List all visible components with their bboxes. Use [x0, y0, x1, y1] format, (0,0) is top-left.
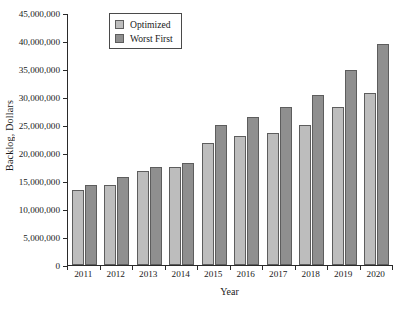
bars-container — [68, 14, 392, 265]
y-axis-tick-mark — [63, 154, 68, 155]
y-axis-tick-label: 35,000,000 — [19, 66, 60, 75]
legend-label-worst-first: Worst First — [130, 33, 173, 44]
y-axis-tick-label: 45,000,000 — [19, 10, 60, 19]
y-axis-tick-mark — [63, 14, 68, 15]
chart-legend: Optimized Worst First — [109, 13, 182, 49]
x-axis-tick-label: 2011 — [74, 269, 92, 279]
y-axis-tick-mark — [63, 238, 68, 239]
x-axis-tick-label: 2012 — [107, 269, 125, 279]
bar — [299, 125, 311, 265]
y-axis-tick-mark — [63, 98, 68, 99]
y-axis-title-text: Backlog, Dollars — [4, 100, 15, 171]
x-axis-tick-label: 2013 — [139, 269, 157, 279]
y-axis-tick-mark — [63, 42, 68, 43]
bar — [182, 163, 194, 265]
x-axis-tick-mark — [392, 265, 393, 270]
plot-area — [67, 14, 392, 266]
y-axis-tick-label: 0 — [55, 262, 60, 271]
y-axis-tick-mark — [63, 210, 68, 211]
x-axis-tick-label: 2017 — [269, 269, 287, 279]
bar — [85, 185, 97, 265]
bar — [280, 107, 292, 265]
y-axis-tick-mark — [63, 70, 68, 71]
bar — [377, 44, 389, 265]
bar — [332, 107, 344, 265]
bar — [72, 190, 84, 265]
bar — [150, 167, 162, 265]
y-axis-tick-label: 30,000,000 — [19, 94, 60, 103]
bar — [234, 136, 246, 265]
legend-swatch-icon-optimized — [115, 20, 124, 29]
legend-label-optimized: Optimized — [130, 19, 171, 30]
y-axis-tick-mark — [63, 182, 68, 183]
bar — [364, 93, 376, 265]
bar — [267, 133, 279, 265]
bar — [117, 177, 129, 265]
bar — [169, 167, 181, 265]
bar — [137, 171, 149, 265]
x-axis-tick-label: 2015 — [204, 269, 222, 279]
y-axis-tick-label: 40,000,000 — [19, 38, 60, 47]
bar — [312, 95, 324, 265]
x-axis-tick-label: 2018 — [302, 269, 320, 279]
bar — [202, 143, 214, 265]
x-axis-tick-labels: 2011201220132014201520162017201820192020 — [67, 269, 392, 285]
y-axis-tick-label: 10,000,000 — [19, 206, 60, 215]
y-axis-tick-label: 15,000,000 — [19, 178, 60, 187]
x-axis-tick-label: 2019 — [334, 269, 352, 279]
x-axis-tick-label: 2016 — [237, 269, 255, 279]
y-axis-tick-labels: 05,000,00010,000,00015,000,00020,000,000… — [14, 14, 64, 266]
legend-item-optimized: Optimized — [115, 17, 173, 31]
x-axis-title: Year — [67, 286, 392, 297]
y-axis-tick-label: 20,000,000 — [19, 150, 60, 159]
legend-swatch-icon-worst-first — [115, 34, 124, 43]
bar — [345, 70, 357, 265]
y-axis-tick-label: 25,000,000 — [19, 122, 60, 131]
bar — [247, 117, 259, 265]
bar — [215, 125, 227, 265]
x-axis-tick-label: 2014 — [172, 269, 190, 279]
legend-item-worst-first: Worst First — [115, 31, 173, 45]
bar — [104, 185, 116, 265]
x-axis-tick-label: 2020 — [367, 269, 385, 279]
bar-chart: Backlog, Dollars 05,000,00010,000,00015,… — [0, 0, 398, 325]
y-axis-tick-mark — [63, 126, 68, 127]
y-axis-tick-label: 5,000,000 — [23, 234, 60, 243]
